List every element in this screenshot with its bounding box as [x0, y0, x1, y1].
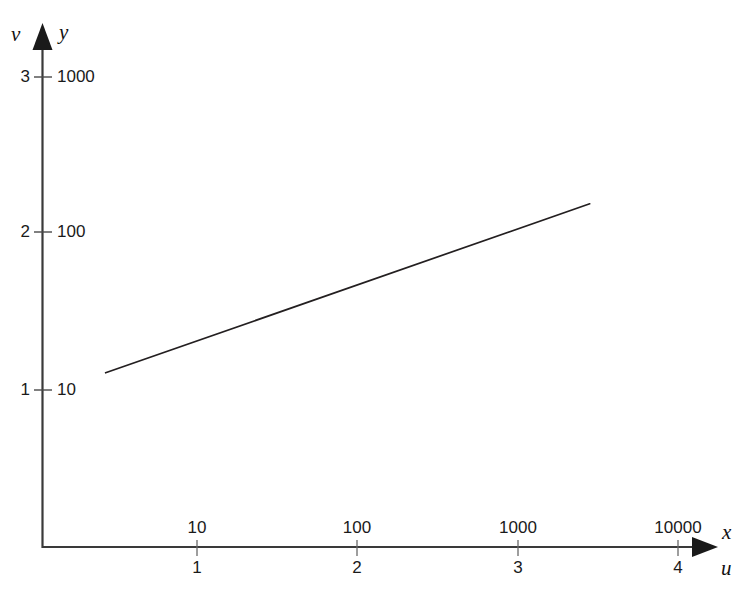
x-tick-label-outer: 1: [167, 559, 227, 576]
data-series-line: [106, 204, 590, 373]
y-axis-inner-variable-label: y: [59, 22, 68, 43]
y-tick-label-inner: 1000: [57, 68, 95, 85]
arrow-up-icon: [33, 23, 53, 50]
y-tick-label-outer: 1: [8, 381, 30, 398]
y-tick-label-inner: 10: [57, 381, 76, 398]
y-tick-label-inner: 100: [57, 223, 85, 240]
y-tick-label-outer: 2: [8, 223, 30, 240]
x-tick-label-inner: 10000: [643, 519, 713, 536]
x-tick-label-inner: 100: [327, 519, 387, 536]
x-tick-label-inner: 1000: [488, 519, 548, 536]
x-tick-label-outer: 3: [488, 559, 548, 576]
y-tick-label-outer: 3: [8, 68, 30, 85]
x-axis-outer-variable-label: u: [721, 558, 732, 579]
x-tick-label-outer: 2: [327, 559, 387, 576]
chart-figure: v y 3 1000 2 100 1 10 10 100 1000 10000 …: [0, 0, 745, 597]
x-tick-label-outer: 4: [648, 559, 708, 576]
plot-canvas: [0, 0, 745, 597]
y-axis-outer-variable-label: v: [11, 24, 20, 45]
arrow-right-icon: [692, 537, 718, 557]
x-tick-label-inner: 10: [167, 519, 227, 536]
x-axis-inner-variable-label: x: [722, 522, 731, 543]
